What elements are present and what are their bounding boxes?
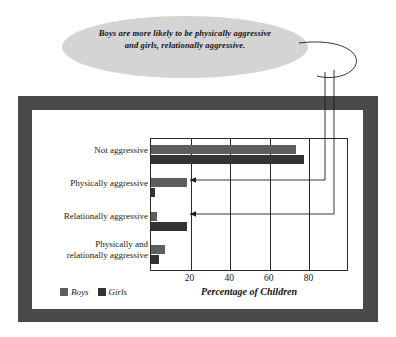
chart-legend: Boys Girls (60, 287, 127, 297)
y-label-line: Physically and (95, 239, 148, 249)
legend-item-girls: Girls (98, 287, 128, 297)
y-label-line: Not aggressive (94, 145, 148, 155)
y-label-line: Physically aggressive (70, 178, 148, 188)
x-tick-80: 80 (304, 273, 314, 283)
bar-group-not-aggressive (151, 139, 347, 172)
y-axis-label-not-aggressive: Not aggressive (38, 145, 148, 156)
x-tick-40: 40 (224, 273, 234, 283)
x-tick-60: 60 (264, 273, 274, 283)
y-axis-labels: Not aggressive Physically aggressive Rel… (36, 138, 148, 271)
bar-group-physically-and-relationally-aggressive (151, 239, 347, 272)
y-label-line: relationally aggressive (67, 250, 148, 260)
legend-swatch-boys (60, 288, 68, 296)
bar-boys (151, 178, 187, 187)
bar-group-relationally-aggressive (151, 206, 347, 239)
bar-boys (151, 245, 165, 254)
legend-swatch-girls (98, 288, 106, 296)
bar-girls (151, 222, 187, 231)
bar-girls (151, 188, 155, 197)
figure-inner-panel: Not aggressive Physically aggressive Rel… (32, 110, 363, 309)
legend-label-boys: Boys (71, 287, 89, 297)
figure-frame: Not aggressive Physically aggressive Rel… (18, 96, 378, 322)
y-axis-label-physically-aggressive: Physically aggressive (38, 178, 148, 189)
legend-item-boys: Boys (60, 287, 89, 297)
x-axis-tick-labels: 20 40 60 80 (150, 273, 348, 287)
bar-group-physically-aggressive (151, 172, 347, 205)
legend-label-girls: Girls (109, 287, 128, 297)
x-tick-20: 20 (185, 273, 195, 283)
bar-boys (151, 145, 296, 154)
callout-text: Boys are more likely to be physically ag… (70, 28, 300, 51)
bar-boys (151, 212, 157, 221)
bar-girls (151, 155, 304, 164)
plot-area (150, 138, 348, 271)
x-axis-title: Percentage of Children (150, 286, 348, 297)
bar-girls (151, 255, 159, 264)
callout-text-line-2: and girls, relationally aggressive. (125, 40, 246, 50)
callout-text-line-1: Boys are more likely to be physically ag… (99, 28, 272, 38)
y-axis-label-physically-and-relationally-aggressive: Physically and relationally aggressive (38, 239, 148, 261)
y-axis-label-relationally-aggressive: Relationally aggressive (38, 211, 148, 222)
y-label-line: Relationally aggressive (64, 211, 148, 221)
